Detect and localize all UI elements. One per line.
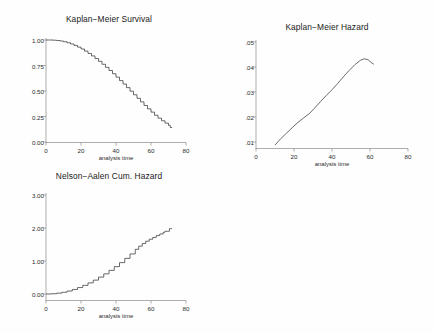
- x-tick-label: 60: [367, 153, 374, 160]
- panel-nelson-aalen-cumulative-hazard: Nelson−Aalen Cum. Hazard 3.00 2.00 1.00 …: [0, 167, 218, 327]
- panel-kaplan-meier-hazard: Kaplan−Meier Hazard .05 .04 .03 .02 .01 …: [218, 14, 436, 167]
- x-axis-title-nelson-aalen: analysis time: [99, 313, 134, 319]
- x-axis-title-hazard: analysis time: [315, 161, 350, 167]
- x-tick-label: 60: [148, 147, 155, 154]
- x-tick-label: 40: [113, 305, 120, 312]
- cumulative-hazard-curve: [46, 229, 172, 294]
- plot-area-nelson-aalen: [0, 167, 218, 327]
- x-tick-label: 40: [113, 147, 120, 154]
- survival-curve: [46, 40, 172, 128]
- x-tick-label: 20: [78, 147, 85, 154]
- plot-area-survival: [0, 14, 218, 167]
- figure-canvas: Kaplan−Meier Survival 1.00 0.75 0.50 0.2…: [0, 0, 436, 333]
- x-tick-label: 60: [148, 305, 155, 312]
- x-tick-label: 20: [291, 153, 298, 160]
- x-tick-label: 80: [183, 147, 190, 154]
- panel-kaplan-meier-survival: Kaplan−Meier Survival 1.00 0.75 0.50 0.2…: [0, 14, 218, 167]
- x-tick-label: 0: [44, 147, 47, 154]
- x-tick-label: 20: [78, 305, 85, 312]
- hazard-curve: [275, 59, 374, 145]
- x-tick-label: 0: [254, 153, 257, 160]
- x-axis-title-survival: analysis time: [99, 155, 134, 161]
- plot-area-hazard: [218, 14, 436, 167]
- x-tick-label: 80: [405, 153, 412, 160]
- x-tick-label: 80: [183, 305, 190, 312]
- x-tick-label: 0: [44, 305, 47, 312]
- x-tick-label: 40: [329, 153, 336, 160]
